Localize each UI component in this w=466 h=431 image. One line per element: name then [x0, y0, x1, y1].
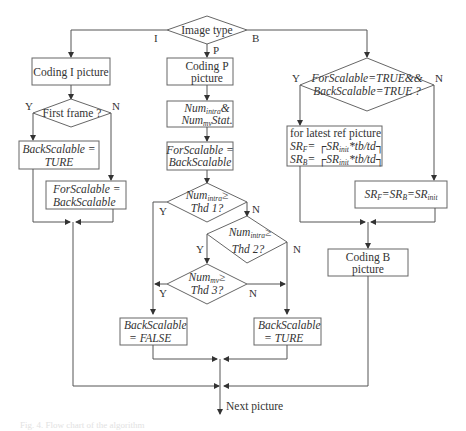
label-yes: Y — [196, 243, 204, 255]
svg-text:Numintra≥: Numintra≥ — [185, 189, 229, 203]
figure-caption: Fig. 4. Flow chart of the algorithm — [20, 420, 144, 430]
box-line: BackScalable = — [22, 143, 95, 155]
for-scalable-p-box: ForScalable = BackScalable — [165, 142, 233, 170]
thd2-decision: Numintra≥ Thd 2? — [207, 216, 287, 263]
box-line: = TURE — [264, 332, 303, 344]
label-no: N — [293, 243, 301, 255]
box-line: ForScalable = — [165, 144, 233, 156]
box-line: TURE — [45, 156, 74, 168]
back-scalable-true-box: BackScalable = TURE — [254, 318, 321, 345]
branch-label-i: I — [154, 32, 158, 44]
image-type-label: Image type — [181, 24, 232, 37]
connector — [153, 345, 217, 359]
connector-b — [247, 30, 367, 57]
box-line: picture — [352, 263, 384, 276]
branch-label-b: B — [252, 32, 259, 44]
label-no: N — [435, 72, 443, 84]
label-yes: Y — [292, 72, 300, 84]
svg-text:Nummv≥: Nummv≥ — [188, 271, 226, 285]
connector-i — [71, 30, 167, 57]
first-frame-label: First frame ? — [43, 107, 102, 119]
connector — [224, 345, 287, 359]
coding-i-label: Coding I picture — [33, 66, 108, 79]
box-line: ForScalable = — [52, 183, 120, 195]
svg-text:Thd 1?: Thd 1? — [191, 202, 224, 214]
scalable-check-decision: ForScalable=TRUE&& BackScalable=TRUE ? — [300, 58, 434, 111]
svg-text:Numintra≥: Numintra≥ — [228, 226, 272, 240]
box-line: BackScalable — [169, 156, 232, 168]
label-no: N — [249, 287, 257, 299]
box-line: = FALSE — [129, 332, 171, 344]
connector — [371, 208, 435, 222]
svg-text:Thd 3?: Thd 3? — [191, 284, 224, 296]
for-scalable-assign-box: ForScalable = BackScalable — [46, 181, 126, 209]
coding-b-box: Coding B picture — [328, 249, 408, 276]
image-type-decision: Image type — [167, 16, 247, 44]
connector — [76, 209, 113, 222]
box-line: ForScalable=TRUE&& — [310, 72, 422, 84]
next-picture-label: Next picture — [226, 400, 283, 413]
svg-text:SRF=SRB=SRinit: SRF=SRB=SRinit — [364, 188, 438, 202]
first-frame-decision: First frame ? — [33, 99, 111, 127]
num-stat-box: Numintra& NummvStat. — [167, 101, 233, 128]
back-scalable-false-box: BackScalable = FALSE — [120, 318, 187, 345]
label-yes: Y — [25, 100, 33, 112]
label-yes: Y — [159, 205, 167, 217]
branch-label-p: P — [213, 44, 219, 56]
box-line: BackScalable — [124, 319, 187, 331]
thd1-decision: Numintra≥ Thd 1? — [167, 183, 247, 222]
box-line: BackScalable — [53, 196, 116, 208]
label-no: N — [252, 203, 260, 215]
box-line: BackScalable — [258, 319, 321, 331]
back-scalable-ture-box: BackScalable = TURE — [19, 141, 99, 169]
label-yes: Y — [159, 287, 167, 299]
box-line: BackScalable=TRUE ? — [313, 85, 421, 97]
latest-ref-box: for latest ref picture SRF= ┌SRinit*tb/t… — [287, 126, 384, 167]
label-no: N — [112, 100, 120, 112]
thd3-decision: Nummv≥ Thd 3? — [167, 264, 247, 304]
sr-init-box: SRF=SRB=SRinit — [355, 181, 447, 208]
box-line: picture — [191, 72, 223, 85]
box-line: for latest ref picture — [290, 127, 381, 140]
coding-i-box: Coding I picture — [32, 58, 110, 85]
svg-text:Thd 2?: Thd 2? — [232, 243, 265, 255]
coding-p-box: Coding P picture — [167, 58, 233, 85]
flowchart: Image type I P B Coding I picture First … — [0, 0, 466, 431]
